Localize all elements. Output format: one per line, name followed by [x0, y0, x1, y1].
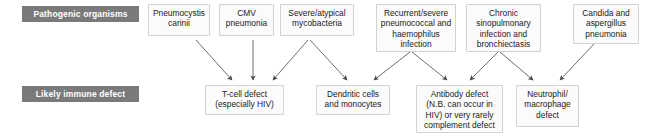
node-t-cell-defect: T-cell defect (especially HIV): [205, 85, 284, 115]
arrow-sinopulmonary-to-neutrophil: [500, 52, 533, 80]
node-dendritic-cells-monocytes: Dendritic cells and monocytes: [316, 85, 390, 115]
node-cmv-pneumonia: CMV pneumonia: [219, 4, 274, 36]
node-chronic-sinopulmonary-bronchiectasis: Chronic sinopulmonary infection and bron…: [466, 4, 541, 52]
node-severe-atypical-mycobacteria: Severe/atypical mycobacteria: [280, 4, 354, 36]
arrow-sinopulmonary-to-antibody: [470, 52, 498, 80]
node-neutrophil-macrophage-defect: Neutrophil/ macrophage defect: [516, 85, 579, 127]
node-recurrent-pneumococcal-haemophilus: Recurrent/severe pneumococcal and haemop…: [376, 4, 456, 52]
node-pneumocystis-carinii: Pneumocystis carinii: [148, 4, 210, 36]
arrow-mycobacteria-to-dendritic: [310, 40, 347, 80]
arrow-pneumocystis-to-tcell: [196, 40, 232, 80]
arrow-candida-to-neutrophil: [560, 44, 594, 80]
immunodeficiency-flowchart: Pathogenic organisms Likely immune defec…: [0, 0, 652, 136]
row-label-pathogenic-organisms: Pathogenic organisms: [22, 6, 139, 22]
row-label-likely-immune-defect: Likely immune defect: [22, 86, 139, 102]
node-antibody-defect: Antibody defect (N.B. can occur in HIV) …: [416, 85, 503, 133]
arrow-mycobacteria-to-tcell: [273, 40, 308, 80]
arrow-pneumococcal-to-antibody: [412, 52, 447, 80]
arrow-pneumococcal-to-dendritic: [374, 52, 410, 80]
node-candida-aspergillus-pneumonia: Candida and aspergillus pneumonia: [573, 4, 639, 44]
